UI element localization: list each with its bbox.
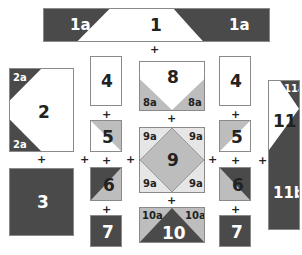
- piece-9: 9a 9a 9 9a 9a: [139, 127, 205, 193]
- join-plus: +: [150, 44, 159, 55]
- piece-8: 8 8a 8a: [139, 61, 205, 111]
- join-plus: +: [231, 155, 240, 166]
- piece-7-left-label: 7: [102, 224, 114, 241]
- piece-11a-label: 11a: [284, 84, 300, 94]
- piece-6-right: 6: [219, 167, 251, 201]
- piece-6-left: 6: [90, 167, 122, 201]
- piece-10: 10a 10a 10: [139, 207, 205, 243]
- piece-1: 1a 1 1a: [43, 8, 270, 42]
- piece-4-left-label: 4: [101, 73, 113, 90]
- piece-6-right-label: 6: [232, 177, 244, 194]
- piece-11-label: 11: [273, 113, 297, 130]
- piece-7-right: 7: [219, 215, 251, 247]
- join-plus: +: [102, 204, 111, 215]
- piece-7-left: 7: [90, 215, 122, 247]
- piece-5-left: 5: [90, 120, 122, 152]
- piece-2a-top-label: 2a: [13, 73, 27, 83]
- piece-2: 2a 2 2a: [9, 68, 74, 152]
- join-plus: +: [126, 154, 135, 165]
- join-plus: +: [37, 154, 46, 165]
- piece-9a-br-label: 9a: [189, 179, 203, 189]
- piece-11-shape: [269, 81, 299, 229]
- join-plus: +: [258, 155, 267, 166]
- piece-3-label: 3: [37, 194, 49, 211]
- piece-3: 3: [9, 168, 74, 236]
- join-plus: +: [167, 195, 176, 206]
- join-plus: +: [80, 154, 89, 165]
- piece-2a-bottom-label: 2a: [13, 140, 27, 150]
- join-plus: +: [231, 109, 240, 120]
- piece-6-left-label: 6: [103, 177, 115, 194]
- piece-5-left-label: 5: [102, 129, 114, 146]
- piece-5-right: 5: [219, 120, 251, 152]
- piece-9a-tr-label: 9a: [189, 132, 203, 142]
- piece-9a-tl-label: 9a: [143, 132, 157, 142]
- piece-1a-left-label: 1a: [70, 18, 91, 33]
- piece-7-right-label: 7: [231, 224, 243, 241]
- piece-1a-right-label: 1a: [229, 18, 250, 33]
- join-plus: +: [102, 109, 111, 120]
- piece-9-label: 9: [167, 152, 179, 169]
- piece-10a-right-label: 10a: [185, 211, 205, 221]
- piece-8a-right-label: 8a: [188, 98, 202, 108]
- piece-2-label: 2: [38, 104, 50, 121]
- join-plus: +: [167, 113, 176, 124]
- piece-5-right-label: 5: [231, 129, 243, 146]
- piece-4-right: 4: [219, 56, 251, 106]
- join-plus: +: [208, 154, 217, 165]
- piece-8-label: 8: [167, 69, 179, 86]
- piece-9a-bl-label: 9a: [143, 179, 157, 189]
- join-plus: +: [231, 204, 240, 215]
- piece-4-right-label: 4: [230, 73, 242, 90]
- piece-10-label: 10: [162, 225, 186, 242]
- piece-11b-label: 11b: [273, 186, 300, 201]
- piece-4-left: 4: [90, 56, 122, 106]
- piece-1-label: 1: [150, 17, 162, 34]
- piece-8a-left-label: 8a: [143, 98, 157, 108]
- piece-11: 11a 11 11b: [268, 80, 300, 230]
- join-plus: +: [102, 155, 111, 166]
- piece-10a-left-label: 10a: [142, 211, 163, 221]
